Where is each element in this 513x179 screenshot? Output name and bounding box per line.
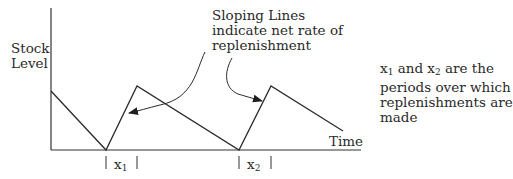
callout-line-3: replenishment xyxy=(212,38,343,53)
x-axis-label: Time xyxy=(329,134,363,149)
callout-line-1: Sloping Lines xyxy=(212,8,343,23)
callout-text: Sloping Lines indicate net rate of reple… xyxy=(212,8,343,53)
period-x1-sub: 1 xyxy=(122,163,128,173)
period-x1-var: x xyxy=(114,156,122,172)
periods-note: x1 and x2 are the periods over which rep… xyxy=(380,61,513,125)
note-line-3: replenishments are xyxy=(380,95,513,110)
period-x2-sub: 2 xyxy=(255,163,261,173)
note-line-2: periods over which xyxy=(380,80,513,95)
callout-arrow-1 xyxy=(129,52,205,113)
note-line-4: made xyxy=(380,110,513,125)
note-rest: are the xyxy=(441,60,494,76)
note-var-x2: x xyxy=(427,60,435,76)
period-x2-label: x2 xyxy=(247,156,260,173)
note-var-x1: x xyxy=(380,60,388,76)
y-axis-label: Stock Level xyxy=(11,41,50,71)
note-and: and xyxy=(393,60,427,76)
period-x1-label: x1 xyxy=(114,156,127,173)
y-axis-label-line-1: Stock xyxy=(11,41,50,56)
callout-arrow-2 xyxy=(227,58,262,101)
y-axis-label-line-2: Level xyxy=(11,56,50,71)
callout-line-2: indicate net rate of xyxy=(212,23,343,38)
note-line-1: x1 and x2 are the xyxy=(380,61,513,80)
stock-level-line xyxy=(51,86,343,150)
period-x2-var: x xyxy=(247,156,255,172)
